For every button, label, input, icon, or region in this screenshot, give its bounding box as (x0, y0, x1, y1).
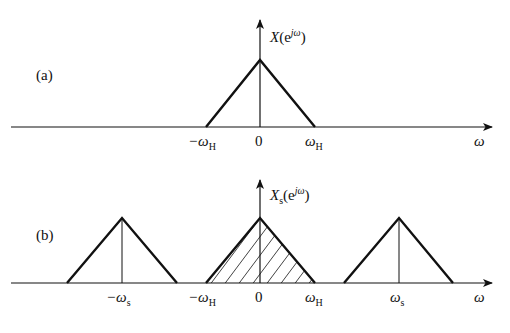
tick-omega-s: ωs (390, 289, 405, 308)
tick-neg-omega-h-a: −ωH (188, 133, 216, 152)
tick-zero-b: 0 (255, 289, 263, 305)
panel-b: (b) Xs(ejω) −ωs (11, 180, 492, 308)
x-axis-label-b: ω (474, 289, 485, 305)
tick-neg-omega-s: −ωs (106, 289, 131, 308)
hatch-pattern (192, 210, 364, 290)
panel-a: (a) X(ejω) −ωH 0 ωH ω (11, 20, 492, 152)
x-axis-label-a: ω (474, 133, 485, 149)
y-axis-label-b: Xs(ejω) (269, 185, 310, 206)
spectrum-diagram: (a) X(ejω) −ωH 0 ωH ω (b) (0, 0, 510, 333)
tick-neg-omega-h-b: −ωH (188, 289, 216, 308)
tick-omega-h-b: ωH (305, 289, 323, 308)
tick-omega-h-a: ωH (305, 133, 323, 152)
panel-label-a: (a) (36, 67, 53, 84)
y-axis-label-a: X(ejω) (269, 27, 306, 46)
panel-label-b: (b) (36, 227, 54, 244)
tick-zero-a: 0 (255, 133, 263, 149)
